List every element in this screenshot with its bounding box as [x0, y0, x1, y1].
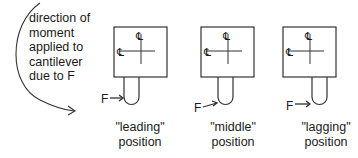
caption-quote: "leading"	[95, 120, 185, 135]
svg-text:F: F	[194, 101, 201, 115]
caption-lagging: "lagging" position	[281, 120, 358, 150]
svg-text:F: F	[101, 92, 108, 106]
centerline-icon: ℄	[285, 46, 293, 58]
force-arrow-icon: F	[101, 92, 123, 106]
centerline-icon: ℄	[135, 30, 143, 42]
centerline-icon: ℄	[203, 46, 211, 58]
caption-middle: "middle" position	[188, 120, 278, 150]
note-line: direction of	[29, 11, 109, 26]
centerline-icon: ℄	[222, 30, 230, 42]
cantilever-middle: ℄ ℄ F	[194, 27, 254, 115]
note-line: due to F	[29, 69, 109, 84]
cantilever-position-diagram: ℄ ℄ F ℄ ℄ F	[0, 0, 358, 158]
caption-word: position	[281, 135, 358, 150]
caption-word: position	[188, 135, 278, 150]
caption-word: position	[95, 135, 185, 150]
caption-leading: "leading" position	[95, 120, 185, 150]
moment-direction-label: direction of moment applied to cantileve…	[29, 11, 109, 84]
force-arrow-icon: F	[194, 101, 217, 115]
caption-quote: "middle"	[188, 120, 278, 135]
note-line: cantilever	[29, 55, 109, 70]
centerline-icon: ℄	[116, 46, 124, 58]
note-line: applied to	[29, 40, 109, 55]
cantilever-lagging: ℄ ℄ F	[283, 27, 336, 113]
caption-quote: "lagging"	[281, 120, 358, 135]
force-arrow-icon: F	[286, 99, 310, 113]
cantilever-leading: ℄ ℄ F	[101, 27, 167, 106]
centerline-icon: ℄	[304, 30, 312, 42]
svg-text:F: F	[286, 99, 293, 113]
note-line: moment	[29, 26, 109, 41]
